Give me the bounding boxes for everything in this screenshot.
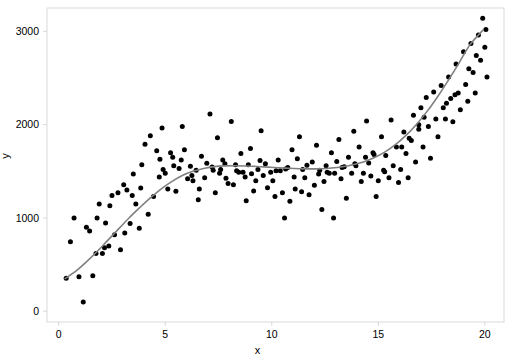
data-point — [314, 143, 319, 148]
data-point — [282, 215, 287, 220]
data-point — [204, 161, 209, 166]
data-point — [81, 299, 86, 304]
data-point — [480, 16, 485, 21]
data-point — [251, 188, 256, 193]
plot-panel-background — [47, 8, 504, 322]
data-point — [202, 175, 207, 180]
data-point — [170, 155, 175, 160]
data-point — [207, 111, 212, 116]
data-point — [307, 192, 312, 197]
data-point — [346, 155, 351, 160]
y-axis-label: y — [0, 153, 11, 159]
data-point — [361, 171, 366, 176]
data-point — [72, 215, 77, 220]
data-point — [179, 158, 184, 163]
data-point — [374, 194, 379, 199]
data-point — [231, 182, 236, 187]
data-point — [133, 201, 138, 206]
data-point — [223, 176, 228, 181]
data-point — [154, 148, 159, 153]
data-point — [482, 45, 487, 50]
data-point — [226, 181, 231, 186]
data-point — [270, 178, 275, 183]
data-point — [368, 173, 373, 178]
x-tick-label: 20 — [479, 328, 491, 340]
data-point — [165, 187, 170, 192]
x-tick-label: 10 — [266, 328, 278, 340]
data-point — [336, 137, 341, 142]
data-point — [234, 168, 239, 173]
data-point — [418, 105, 423, 110]
data-point — [124, 187, 129, 192]
chart-container: 0100020003000 05101520 y x — [0, 0, 515, 364]
data-point — [211, 168, 216, 173]
data-point — [295, 156, 300, 161]
data-point — [265, 185, 270, 190]
data-point — [339, 176, 344, 181]
data-point — [215, 135, 220, 140]
y-axis-ticks: 0100020003000 — [16, 25, 47, 317]
data-point — [403, 151, 408, 156]
data-point — [448, 96, 453, 101]
data-point — [351, 129, 356, 134]
data-point — [258, 158, 263, 163]
data-point — [450, 119, 455, 124]
data-point — [272, 194, 277, 199]
data-point — [238, 151, 243, 156]
data-point — [321, 179, 326, 184]
data-point — [484, 75, 489, 80]
data-point — [396, 180, 401, 185]
data-point — [416, 127, 421, 132]
data-point — [157, 174, 162, 179]
data-point — [473, 90, 478, 95]
data-point — [103, 221, 108, 226]
data-point — [406, 175, 411, 180]
data-point — [364, 118, 369, 123]
data-point — [95, 215, 100, 220]
data-point — [325, 170, 330, 175]
data-point — [370, 150, 375, 155]
x-tick-label: 0 — [56, 328, 62, 340]
data-point — [376, 178, 381, 183]
data-point — [131, 172, 136, 177]
data-point — [87, 229, 92, 234]
data-point — [389, 117, 394, 122]
data-point — [332, 171, 337, 176]
data-point — [359, 179, 364, 184]
data-point — [431, 89, 436, 94]
data-point — [334, 159, 339, 164]
data-point — [293, 187, 298, 192]
data-point — [197, 187, 202, 192]
data-point — [253, 178, 258, 183]
data-point — [312, 183, 317, 188]
data-point — [241, 170, 246, 175]
data-point — [109, 193, 114, 198]
data-point — [478, 58, 483, 63]
data-point — [130, 193, 135, 198]
data-point — [399, 145, 404, 150]
data-point — [196, 197, 201, 202]
data-point — [426, 124, 431, 129]
data-point — [90, 273, 95, 278]
data-point — [268, 170, 273, 175]
data-point — [121, 182, 126, 187]
data-point — [413, 159, 418, 164]
data-point — [329, 150, 334, 155]
data-point — [68, 239, 73, 244]
data-point — [138, 186, 143, 191]
data-point — [248, 146, 253, 151]
data-point — [383, 153, 388, 158]
data-point — [190, 178, 195, 183]
data-point — [299, 189, 304, 194]
data-point — [443, 117, 448, 122]
data-point — [458, 107, 463, 112]
data-point — [263, 161, 268, 166]
data-point — [304, 163, 309, 168]
data-point — [157, 157, 162, 162]
data-point — [185, 176, 190, 181]
data-point — [465, 99, 470, 104]
data-point — [439, 83, 444, 88]
y-tick-label: 2000 — [16, 118, 40, 130]
data-point — [474, 53, 479, 58]
data-point — [146, 212, 151, 217]
